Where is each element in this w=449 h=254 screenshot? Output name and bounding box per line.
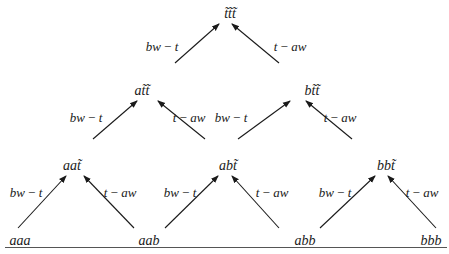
edge-label: t − aw	[324, 111, 357, 124]
edges-layer	[0, 0, 449, 254]
edge-label: bw − t	[215, 111, 248, 124]
edge-label: t − aw	[104, 186, 137, 199]
edge-label: bw − t	[164, 186, 197, 199]
edge-label: t − aw	[406, 186, 439, 199]
edge-label: t − aw	[173, 111, 206, 124]
lattice-diagram: t̃t̃t̃at̃t̃bt̃t̃aat̃abt̃bbt̃aaaaababbbbb…	[0, 0, 449, 254]
node-aab: aab	[139, 234, 160, 248]
edge-label: bw − t	[146, 40, 179, 53]
node-aaa: aaa	[10, 234, 31, 248]
node-aat: aat̃	[63, 159, 81, 173]
edge-arrow-btt-to-ttt	[232, 24, 279, 63]
node-btt: bt̃t̃	[305, 84, 320, 98]
horizontal-rule	[5, 247, 447, 248]
edge-arrow-att-to-ttt	[175, 24, 219, 63]
node-att: at̃t̃	[135, 84, 150, 98]
node-abb: abb	[295, 234, 316, 248]
node-bbt: bbt̃	[377, 159, 395, 173]
edge-label: bw − t	[319, 186, 352, 199]
edge-label: t − aw	[274, 40, 307, 53]
edge-label: bw − t	[10, 186, 43, 199]
node-ttt: t̃t̃t̃	[224, 7, 236, 21]
node-bbb: bbb	[421, 234, 442, 248]
edge-label: bw − t	[70, 111, 103, 124]
edge-label: t − aw	[256, 186, 289, 199]
node-abt: abt̃	[219, 159, 237, 173]
